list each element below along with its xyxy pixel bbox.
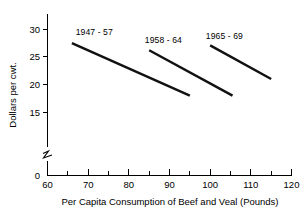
series-label-1958-64: 1958 - 64 bbox=[145, 35, 182, 45]
y-tick-label-zero: 0 bbox=[35, 170, 40, 181]
y-tick-label-20: 20 bbox=[29, 79, 40, 90]
x-axis-title: Per Capita Consumption of Beef and Veal … bbox=[61, 196, 278, 207]
series-label-1965-69: 1965 - 69 bbox=[206, 31, 243, 41]
y-tick-label-15: 15 bbox=[29, 107, 40, 118]
x-tick-label-110: 110 bbox=[243, 179, 258, 190]
x-tick-label-120: 120 bbox=[284, 179, 300, 190]
y-axis-title: Dollars per cwt. bbox=[7, 62, 18, 127]
x-tick-label-70: 70 bbox=[83, 179, 94, 190]
x-tick-label-80: 80 bbox=[124, 179, 135, 190]
series-label-1947-57: 1947 - 57 bbox=[76, 27, 113, 37]
x-tick-label-100: 100 bbox=[202, 179, 218, 190]
y-tick-label-30: 30 bbox=[29, 24, 40, 35]
chart-container: 30 25 20 15 0 60 70 bbox=[0, 0, 307, 216]
x-tick-label-90: 90 bbox=[164, 179, 175, 190]
beef-veal-price-consumption-chart: 30 25 20 15 0 60 70 bbox=[0, 0, 307, 216]
y-tick-label-25: 25 bbox=[29, 51, 40, 62]
x-tick-label-60: 60 bbox=[42, 179, 53, 190]
